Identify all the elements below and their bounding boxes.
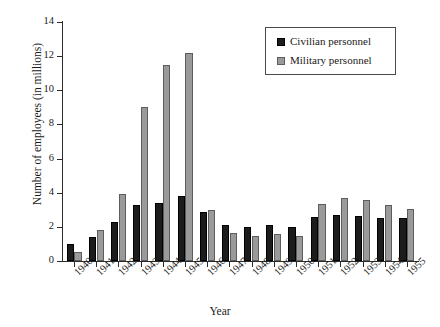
y-tick-label: 10 [28, 84, 54, 95]
y-tick-label: 14 [28, 16, 54, 27]
x-axis-title: Year [0, 305, 440, 317]
bar-civilian-1954 [377, 218, 384, 261]
bar-military-1952 [341, 198, 348, 261]
y-tick-mark [57, 227, 62, 228]
y-tick-label: 8 [28, 118, 54, 129]
bar-military-1945 [185, 53, 192, 261]
bar-military-1944 [163, 65, 170, 261]
bar-civilian-1944 [155, 203, 162, 261]
civilian-swatch-icon [277, 38, 285, 46]
bar-civilian-1947 [222, 225, 229, 261]
bar-military-1947 [230, 233, 237, 261]
y-tick-mark [57, 193, 62, 194]
bar-military-1949 [274, 234, 281, 261]
bar-military-1941 [97, 230, 104, 261]
y-tick-mark [57, 261, 62, 262]
y-tick-label: 2 [28, 221, 54, 232]
bar-military-1955 [407, 209, 414, 261]
bar-military-1954 [385, 205, 392, 261]
bar-civilian-1946 [200, 212, 207, 262]
bar-civilian-1953 [355, 216, 362, 261]
bar-military-1953 [363, 200, 370, 261]
bar-military-1946 [208, 210, 215, 261]
bar-civilian-1949 [266, 225, 273, 261]
bar-military-1950 [296, 236, 303, 261]
bar-civilian-1952 [333, 215, 340, 261]
y-tick-mark [57, 22, 62, 23]
y-tick-mark [57, 159, 62, 160]
bar-civilian-1948 [244, 227, 251, 261]
y-tick-mark [57, 90, 62, 91]
legend-label-civilian: Civilian personnel [290, 36, 371, 47]
legend-entry-military: Military personnel [277, 55, 372, 66]
y-tick-label: 0 [28, 255, 54, 266]
bar-military-1942 [119, 194, 126, 261]
y-tick-label: 4 [28, 187, 54, 198]
bar-civilian-1940 [67, 244, 74, 261]
legend-entry-civilian: Civilian personnel [277, 36, 371, 47]
y-tick-mark [57, 124, 62, 125]
bar-civilian-1945 [178, 196, 185, 261]
military-swatch-icon [277, 57, 285, 65]
bar-military-1948 [252, 236, 259, 261]
legend-label-military: Military personnel [290, 55, 372, 66]
legend: Civilian personnel Military personnel [265, 27, 396, 75]
y-tick-mark [57, 56, 62, 57]
bar-military-1951 [318, 204, 325, 261]
y-tick-label: 6 [28, 153, 54, 164]
bar-chart: Number of employees (in millions) 024681… [0, 0, 440, 327]
y-tick-label: 12 [28, 50, 54, 61]
bar-civilian-1950 [288, 227, 295, 261]
bar-military-1943 [141, 107, 148, 261]
bar-civilian-1942 [111, 222, 118, 261]
bar-civilian-1955 [399, 218, 406, 261]
bar-civilian-1951 [311, 217, 318, 261]
bar-civilian-1943 [133, 205, 140, 261]
